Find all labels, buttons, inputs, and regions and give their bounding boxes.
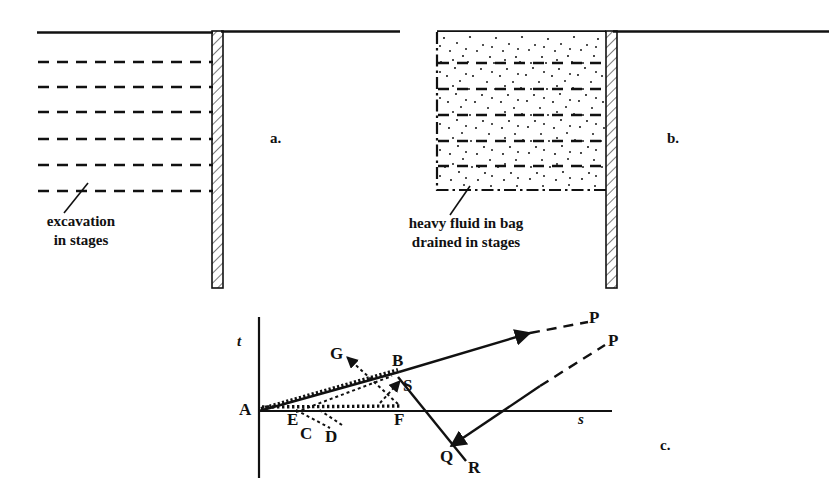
point-label-Q: Q bbox=[440, 447, 453, 466]
panel-letter-a: a. bbox=[270, 130, 281, 147]
point-label-R: R bbox=[468, 458, 480, 477]
point-label-G: G bbox=[330, 344, 343, 363]
panel-letter-b: b. bbox=[667, 130, 679, 147]
point-label-F: F bbox=[394, 410, 404, 429]
caption-leader-a bbox=[64, 183, 88, 213]
panel-letter-c: c. bbox=[660, 437, 670, 454]
panel-c-graphics bbox=[259, 317, 612, 478]
path-F-to-S-dotted bbox=[380, 381, 400, 403]
axis-label-s: s bbox=[578, 411, 584, 428]
path-B-to-P1-dashed bbox=[530, 322, 588, 333]
axis-label-t: t bbox=[237, 333, 241, 350]
point-label-B: B bbox=[392, 351, 403, 370]
point-label-S: S bbox=[403, 376, 412, 395]
panel-a-caption-line-2: in stages bbox=[16, 232, 146, 249]
panel-a-caption-line-1: excavation bbox=[16, 213, 146, 230]
point-label-C: C bbox=[300, 424, 312, 443]
panel-a-graphics bbox=[37, 31, 400, 288]
path-Q-to-P2-solid bbox=[451, 386, 540, 446]
point-label-P-lower: P bbox=[608, 331, 618, 350]
panel-b-caption-line-1: heavy fluid in bag bbox=[366, 215, 566, 232]
path-A-F-dotted bbox=[262, 406, 400, 407]
figure-root: a. excavation in stages b. heavy fluid i… bbox=[0, 0, 836, 499]
path-B-to-P1-solid bbox=[399, 333, 530, 372]
path-Q-to-P2-dashed bbox=[540, 345, 605, 386]
point-label-P-upper: P bbox=[589, 308, 599, 327]
retaining-wall-b bbox=[606, 31, 617, 288]
point-label-D: D bbox=[325, 427, 337, 446]
path-A-B-dotted bbox=[261, 370, 398, 409]
excavation-stage-lines-a bbox=[38, 62, 213, 191]
point-label-A: A bbox=[239, 400, 251, 419]
point-label-E: E bbox=[287, 410, 298, 429]
panel-b-caption-line-2: drained in stages bbox=[366, 234, 566, 251]
heavy-fluid-bag-b bbox=[437, 32, 606, 190]
retaining-wall-a bbox=[212, 31, 223, 288]
